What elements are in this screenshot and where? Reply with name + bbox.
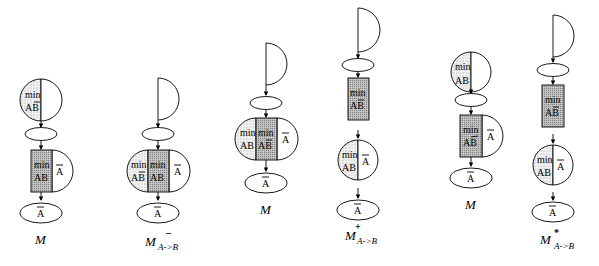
empty-ellipse-node (250, 97, 282, 110)
bottom-ellipse-node: A (137, 203, 179, 223)
node-text-ab: AB (545, 107, 559, 118)
capsule-node: min AB min AB A (235, 118, 298, 160)
node-text-a-bar: A (262, 178, 270, 189)
bottom-ellipse-node: A (532, 202, 574, 222)
top-half-circle-node (553, 15, 574, 57)
node-text-a-bar: A (154, 208, 162, 219)
panel-label: M (144, 234, 157, 249)
panel-m-1: min AB min AB A A M (20, 79, 73, 247)
top-half-circle-node (266, 43, 287, 85)
node-text-a-bar: A (354, 205, 362, 216)
node-text-ab: AB (131, 172, 145, 183)
panel-subscript: A->B (553, 241, 575, 251)
node-text-ab: AB (150, 172, 164, 183)
node-text-a-bar: A (557, 161, 565, 172)
empty-ellipse-node (342, 59, 374, 72)
panel-superscript: – (165, 227, 172, 238)
rect-node: min AB (542, 85, 564, 127)
node-text-min: min (537, 154, 553, 165)
top-circle-node: min AB (451, 52, 491, 92)
split-circle-node: min AB A (533, 145, 573, 185)
panel-superscript: + (355, 221, 361, 232)
bottom-ellipse-node: A (450, 168, 492, 188)
node-text-a-bar: A (174, 166, 182, 177)
node-text-min: min (545, 94, 561, 105)
node-text-min: min (258, 127, 274, 138)
panel-m-3: min AB min AB A A M (450, 52, 503, 212)
node-text-a-bar: A (487, 131, 495, 142)
top-half-circle-node (158, 78, 179, 120)
node-text-min: min (350, 87, 366, 98)
bottom-ellipse-node: A (245, 173, 287, 193)
node-text-min: min (131, 159, 147, 170)
node-text-ab: AB (350, 100, 364, 111)
bottom-ellipse-node: A (20, 203, 62, 223)
node-text-a-bar: A (37, 208, 45, 219)
empty-ellipse-node (455, 94, 487, 107)
node-text-ab: AB (258, 140, 272, 151)
node-text-min: min (150, 159, 166, 170)
rect-node: min AB (348, 78, 369, 120)
middle-node: min AB A (460, 115, 503, 157)
panel-superscript: * (554, 227, 559, 238)
diagram-canvas: min AB min AB A A M (0, 0, 599, 266)
node-text-min: min (240, 127, 256, 138)
panel-label: M (259, 202, 272, 217)
node-text-a-bar: A (56, 166, 64, 177)
node-text-min: min (455, 61, 471, 72)
node-text-ab: AB (537, 167, 551, 178)
split-circle-node: min AB A (338, 140, 378, 180)
capsule-node: min AB min AB A (127, 150, 190, 192)
node-text-min: min (463, 124, 479, 135)
node-text-min: min (34, 159, 50, 170)
panel-m-minus: min AB min AB A A M – A->B (127, 78, 190, 252)
node-text-ab: AB (463, 137, 477, 148)
node-text-ab: AB (34, 172, 48, 183)
node-text-a-bar: A (549, 207, 557, 218)
panel-m-star: min AB min AB A A M * A->B (532, 15, 575, 251)
panel-subscript: A->B (356, 236, 378, 246)
node-text-a-bar: A (467, 173, 475, 184)
top-circle-node: min AB (20, 79, 62, 121)
node-text-ab: AB (342, 162, 356, 173)
node-text-ab: AB (240, 140, 254, 151)
panel-label: M (464, 197, 477, 212)
panel-label: M (34, 232, 47, 247)
bottom-ellipse-node: A (337, 200, 379, 220)
top-half-circle-node (358, 8, 380, 52)
empty-ellipse-node (537, 64, 569, 77)
empty-ellipse-node (142, 128, 174, 141)
panel-subscript: A->B (157, 242, 179, 252)
node-text-ab: AB (455, 75, 469, 86)
node-text-min: min (342, 149, 358, 160)
empty-ellipse-node (25, 128, 57, 141)
middle-node: min AB A (31, 150, 73, 192)
node-text-ab: AB (25, 102, 39, 113)
node-text-min: min (25, 89, 41, 100)
panel-m-2: min AB min AB A A M (235, 43, 298, 217)
panel-label: M (539, 232, 552, 247)
node-text-a-bar: A (282, 134, 290, 145)
node-text-a-bar: A (362, 156, 370, 167)
panel-m-plus: min AB min AB A A M + A->B (337, 8, 380, 246)
